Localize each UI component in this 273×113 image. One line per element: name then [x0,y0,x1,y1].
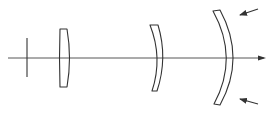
lens-3 [213,10,233,105]
optical-diagram [0,0,273,113]
arrow-top-icon [240,9,258,15]
arrow-bottom-icon [240,99,258,104]
axis-arrow-icon [258,56,266,61]
diagram-svg [0,0,273,113]
